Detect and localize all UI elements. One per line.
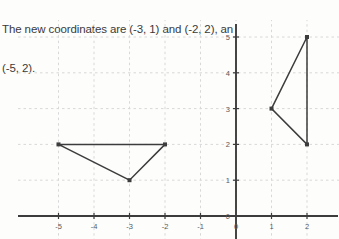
tick-marks	[59, 37, 308, 219]
x-tick-label: 2	[305, 222, 309, 231]
y-tick-label: 4	[226, 69, 230, 78]
vertex-point	[305, 35, 309, 39]
triangle-preimage-triangle	[272, 37, 308, 144]
x-tick-label: -1	[197, 222, 204, 231]
vertex-point	[163, 142, 167, 146]
triangle-image-triangle	[59, 144, 166, 180]
y-tick-label: 0	[226, 212, 230, 221]
vertex-point	[128, 178, 132, 182]
axes	[18, 24, 338, 239]
x-tick-label: -4	[91, 222, 98, 231]
y-tick-label: 2	[226, 140, 230, 149]
tick-labels: -5-4-3-2-1012012345	[55, 33, 309, 231]
x-tick-label: 1	[269, 222, 273, 231]
vertex-point	[57, 142, 61, 146]
screenshot-root: The new coordinates are (-3, 1) and (-2,…	[0, 0, 339, 239]
y-tick-label: 3	[226, 105, 230, 114]
y-tick-label: 5	[226, 33, 230, 42]
x-tick-label: -3	[126, 222, 133, 231]
y-tick-label: 1	[226, 176, 230, 185]
grid-lines	[18, 20, 339, 239]
graph-svg: -5-4-3-2-1012012345	[0, 20, 339, 239]
vertex-point	[305, 142, 309, 146]
coordinate-plane-graph: -5-4-3-2-1012012345	[0, 20, 339, 239]
x-tick-label: -2	[162, 222, 169, 231]
x-tick-label: -5	[55, 222, 62, 231]
x-tick-label: 0	[234, 222, 238, 231]
vertex-point	[270, 107, 274, 111]
